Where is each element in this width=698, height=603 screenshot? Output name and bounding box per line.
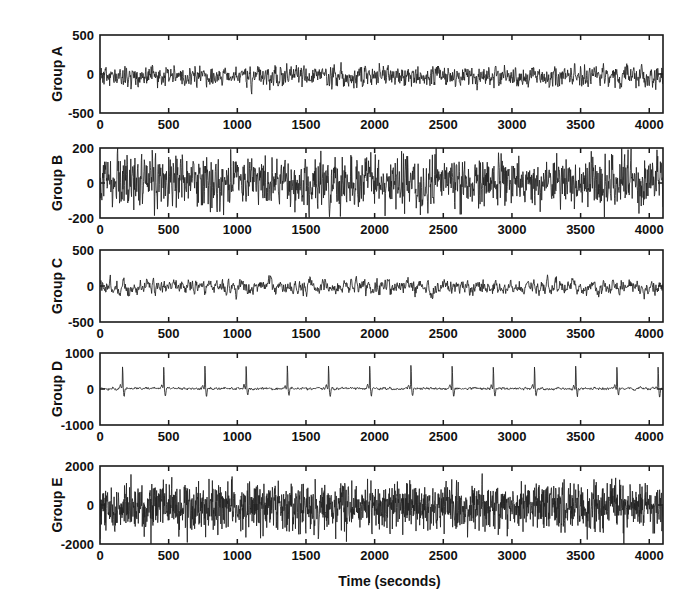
x-tick-label: 1000	[223, 222, 252, 237]
x-tick-label: 0	[96, 548, 103, 563]
x-tick-label: 500	[158, 326, 180, 341]
x-tick-label: 500	[158, 222, 180, 237]
x-tick-label: 4000	[635, 117, 664, 132]
panel-group-b: -2000200Group B0500100015002000250030003…	[49, 141, 664, 238]
y-tick-label: -500	[68, 106, 94, 121]
x-tick-label: 2500	[429, 429, 458, 444]
y-tick-label: 2000	[65, 459, 94, 474]
panel-group-d: -100001000Group D05001000150020002500300…	[49, 346, 664, 445]
x-tick-label: 2500	[429, 222, 458, 237]
x-tick-label: 0	[96, 326, 103, 341]
panel-group-a: -5000500Group A0500100015002000250030003…	[49, 28, 664, 133]
x-tick-label: 500	[158, 117, 180, 132]
x-tick-label: 2500	[429, 326, 458, 341]
figure-panel: -5000500Group A0500100015002000250030003…	[0, 0, 698, 603]
panel-group-e: -200002000Group E05001000150020002500300…	[49, 459, 664, 564]
y-axis-label: Group B	[49, 155, 65, 211]
y-axis-label: Group D	[49, 361, 65, 417]
x-tick-label: 2000	[360, 548, 389, 563]
y-tick-label: 0	[87, 279, 94, 294]
x-tick-label: 1500	[292, 117, 321, 132]
x-tick-label: 2000	[360, 326, 389, 341]
x-tick-label: 500	[158, 548, 180, 563]
y-tick-label: -2000	[61, 537, 94, 552]
x-tick-label: 2000	[360, 222, 389, 237]
y-tick-label: 0	[87, 382, 94, 397]
x-tick-label: 1000	[223, 429, 252, 444]
x-tick-label: 2000	[360, 429, 389, 444]
x-tick-label: 3000	[497, 548, 526, 563]
x-tick-label: 0	[96, 429, 103, 444]
x-tick-label: 3000	[497, 222, 526, 237]
stacked-timeseries-chart: -5000500Group A0500100015002000250030003…	[0, 0, 698, 603]
x-tick-label: 0	[96, 117, 103, 132]
x-tick-label: 3000	[497, 117, 526, 132]
y-axis-label: Group E	[49, 477, 65, 532]
y-tick-label: 200	[72, 141, 94, 156]
y-tick-label: 500	[72, 28, 94, 43]
y-tick-label: -200	[68, 211, 94, 226]
x-tick-label: 3500	[566, 429, 595, 444]
x-tick-label: 1000	[223, 326, 252, 341]
x-tick-label: 3000	[497, 326, 526, 341]
x-tick-label: 3500	[566, 117, 595, 132]
x-tick-label: 3500	[566, 326, 595, 341]
x-tick-label: 2500	[429, 117, 458, 132]
y-axis-label: Group C	[49, 258, 65, 314]
x-tick-label: 0	[96, 222, 103, 237]
x-axis-label: Time (seconds)	[338, 573, 440, 589]
x-tick-label: 500	[158, 429, 180, 444]
x-tick-label: 1500	[292, 429, 321, 444]
x-tick-label: 1500	[292, 326, 321, 341]
x-tick-label: 1000	[223, 548, 252, 563]
x-tick-label: 4000	[635, 548, 664, 563]
x-tick-label: 1000	[223, 117, 252, 132]
x-tick-label: 2500	[429, 548, 458, 563]
x-tick-label: 1500	[292, 222, 321, 237]
x-tick-label: 3500	[566, 222, 595, 237]
x-tick-label: 4000	[635, 326, 664, 341]
y-tick-label: 0	[87, 67, 94, 82]
x-tick-label: 4000	[635, 222, 664, 237]
y-tick-label: 0	[87, 176, 94, 191]
y-tick-label: 500	[72, 243, 94, 258]
x-tick-label: 1500	[292, 548, 321, 563]
x-tick-label: 3000	[497, 429, 526, 444]
panel-group-c: -5000500Group C0500100015002000250030003…	[49, 243, 664, 342]
y-tick-label: 0	[87, 498, 94, 513]
x-tick-label: 3500	[566, 548, 595, 563]
x-tick-label: 4000	[635, 429, 664, 444]
y-tick-label: 1000	[65, 346, 94, 361]
y-tick-label: -500	[68, 315, 94, 330]
x-tick-label: 2000	[360, 117, 389, 132]
y-tick-label: -1000	[61, 418, 94, 433]
y-axis-label: Group A	[49, 46, 65, 101]
